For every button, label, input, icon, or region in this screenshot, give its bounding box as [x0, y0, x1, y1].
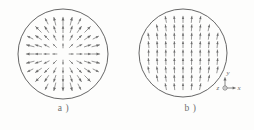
- axis-x-arrowhead: [233, 87, 237, 90]
- field-arrow: [53, 83, 56, 91]
- field-arrow: [182, 84, 184, 90]
- field-arrow: [70, 17, 73, 25]
- field-arrow: [85, 36, 91, 40]
- field-arrow: [165, 33, 167, 39]
- field-arrow: [182, 33, 184, 39]
- field-arrow: [190, 58, 192, 64]
- field-arrow: [208, 42, 210, 48]
- arrow-head: [165, 42, 167, 45]
- field-arrow: [190, 16, 192, 22]
- arrow-head: [62, 17, 65, 20]
- field-arrow: [92, 53, 100, 56]
- arrow-head: [165, 50, 167, 53]
- field-arrow: [45, 76, 49, 82]
- field-arrow: [173, 16, 175, 22]
- field-arrow: [208, 58, 210, 64]
- field-arrow: [77, 61, 82, 64]
- field-arrow: [78, 84, 81, 89]
- field-arrow: [53, 26, 55, 32]
- field-arrow: [156, 42, 158, 48]
- field-arrow: [165, 75, 167, 81]
- field-arrow: [77, 68, 82, 73]
- arrow-head: [26, 53, 29, 56]
- arrow-head: [35, 53, 38, 56]
- field-arrow: [62, 60, 64, 64]
- arrow-head: [190, 33, 192, 36]
- field-arrow: [78, 18, 81, 23]
- arrow-head: [165, 16, 167, 19]
- field-arrow: [147, 58, 149, 64]
- field-arrow: [156, 50, 158, 56]
- arrow-head: [208, 42, 210, 45]
- field-arrow: [35, 61, 41, 63]
- field-arrow: [54, 35, 57, 40]
- field-arrow: [26, 61, 34, 64]
- vector-field-diagram-b: yxz: [127, 0, 254, 103]
- field-arrow: [53, 53, 57, 55]
- field-arrow: [84, 61, 90, 63]
- arrow-head: [190, 58, 192, 61]
- field-arrow: [190, 33, 192, 39]
- field-arrow: [53, 61, 56, 64]
- vector-field-diagram-a: [0, 0, 127, 103]
- arrow-head: [182, 50, 184, 53]
- arrow-head: [208, 25, 210, 28]
- arrow-head: [208, 75, 210, 78]
- axis-z-label: z: [215, 84, 219, 92]
- arrow-head: [35, 36, 38, 39]
- arrow-head: [190, 67, 192, 70]
- field-arrow: [147, 67, 149, 73]
- figure-panel-b: yxz b ): [127, 0, 254, 130]
- arrow-head: [53, 79, 55, 82]
- field-arrow: [199, 50, 201, 56]
- arrow-head: [199, 42, 201, 45]
- field-arrow: [26, 53, 34, 56]
- arrow-head: [182, 33, 184, 36]
- field-arrow: [53, 75, 55, 81]
- arrow-head: [87, 70, 90, 73]
- arrow-head: [182, 67, 184, 70]
- field-arrow: [62, 44, 64, 48]
- arrow-head: [173, 42, 175, 45]
- arrow-head: [182, 25, 184, 28]
- field-arrow: [165, 16, 167, 22]
- arrow-head: [173, 25, 175, 28]
- field-arrow: [190, 84, 192, 90]
- arrow-head: [79, 26, 82, 29]
- field-arrow: [216, 50, 218, 56]
- field-arrow: [70, 26, 72, 32]
- field-arrow: [173, 42, 175, 48]
- field-arrow: [208, 50, 210, 56]
- field-arrow: [199, 67, 201, 73]
- field-arrow: [44, 45, 49, 48]
- arrow-head: [208, 50, 210, 53]
- arrow-head: [216, 67, 218, 70]
- figure-panel-a: a ): [0, 0, 127, 130]
- field-arrow: [92, 44, 100, 47]
- arrow-head: [156, 42, 158, 45]
- arrow-head: [182, 16, 184, 19]
- field-arrow: [70, 75, 72, 81]
- field-arrow: [77, 35, 82, 40]
- field-arrow: [62, 75, 65, 82]
- field-arrow: [35, 44, 41, 46]
- arrow-head: [199, 84, 201, 87]
- arrow-head: [182, 42, 184, 45]
- field-arrow: [92, 61, 100, 64]
- field-arrow: [208, 75, 210, 81]
- arrow-head: [70, 26, 72, 29]
- field-arrow: [190, 42, 192, 48]
- field-arrow: [216, 33, 218, 39]
- field-arrow: [173, 75, 175, 81]
- arrow-head: [199, 50, 201, 53]
- arrow-head: [216, 33, 218, 36]
- arrow-head: [53, 26, 55, 29]
- arrow-head: [173, 67, 175, 70]
- field-arrow: [190, 67, 192, 73]
- field-arrow: [70, 61, 73, 64]
- field-arrow: [182, 50, 184, 56]
- field-arrow: [199, 33, 201, 39]
- arrow-head: [173, 33, 175, 36]
- field-arrow: [156, 33, 158, 39]
- field-arrow: [62, 26, 65, 33]
